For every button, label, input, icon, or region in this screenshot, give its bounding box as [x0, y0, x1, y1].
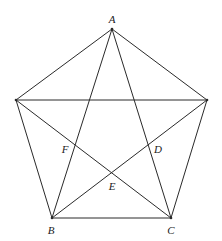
label-a: A: [109, 14, 116, 25]
vertex-r: [206, 99, 209, 102]
edge-ac: [112, 29, 171, 218]
vertex-b: [51, 217, 54, 220]
vertex-l: [15, 99, 18, 102]
edge-lc: [16, 100, 171, 218]
pentagon-diagram: [0, 0, 222, 241]
label-c: C: [167, 225, 174, 236]
edge-ar: [112, 29, 207, 100]
vertex-a: [111, 28, 114, 31]
label-d: D: [154, 144, 162, 155]
edge-lb: [16, 100, 52, 218]
vertex-c: [170, 217, 173, 220]
label-b: B: [48, 225, 55, 236]
label-e: E: [109, 181, 116, 192]
edge-ab: [52, 29, 112, 218]
label-f: F: [62, 144, 69, 155]
edge-rc: [171, 100, 207, 218]
edge-al: [16, 29, 112, 100]
edge-rb: [52, 100, 207, 218]
